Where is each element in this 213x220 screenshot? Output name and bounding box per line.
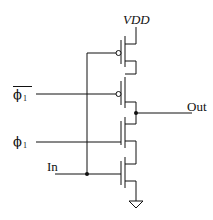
ground-symbol: [129, 201, 143, 208]
pmos-m1: [116, 36, 136, 74]
vdd-wire: [125, 27, 136, 44]
in-junction-dot: [85, 172, 89, 176]
phi1-label: ϕ1: [13, 135, 27, 150]
in-label: In: [47, 160, 58, 173]
out-junction-dot: [134, 111, 138, 115]
vdd-label: VDD: [123, 13, 150, 26]
circuit-schematic: [0, 0, 213, 220]
out-label: Out: [187, 100, 207, 113]
overbar: [13, 86, 32, 87]
phi1-bar-label: ϕ1: [13, 88, 27, 103]
pmos-m2: [116, 77, 136, 124]
